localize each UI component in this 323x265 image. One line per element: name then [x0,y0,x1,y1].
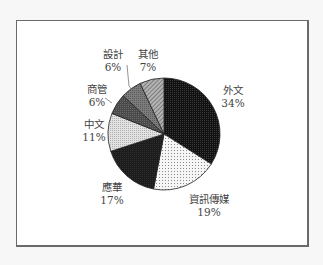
label-pct: 7% [138,61,158,74]
label-qita: 其他 7% [138,48,158,74]
label-pct: 11% [82,131,105,144]
label-shangguan: 商管 6% [87,83,107,109]
label-name: 設計 [103,48,123,61]
label-waiwen: 外文 34% [221,84,244,110]
label-name: 應華 [100,181,123,194]
label-pct: 6% [103,61,123,74]
label-name: 資訊傳媒 [189,193,229,206]
label-pct: 34% [221,97,244,110]
pie-chart [0,0,323,265]
label-pct: 6% [87,96,107,109]
label-pct: 19% [189,206,229,219]
label-yinghua: 應華 17% [100,181,123,207]
label-sheji: 設計 6% [103,48,123,74]
label-name: 外文 [221,84,244,97]
label-name: 中文 [82,118,105,131]
label-zhongwen: 中文 11% [82,118,105,144]
label-name: 商管 [87,83,107,96]
pie-slices [108,78,220,190]
label-pct: 17% [100,194,123,207]
label-zixun: 資訊傳媒 19% [189,193,229,219]
leader-line-sheji [127,65,132,90]
label-name: 其他 [138,48,158,61]
